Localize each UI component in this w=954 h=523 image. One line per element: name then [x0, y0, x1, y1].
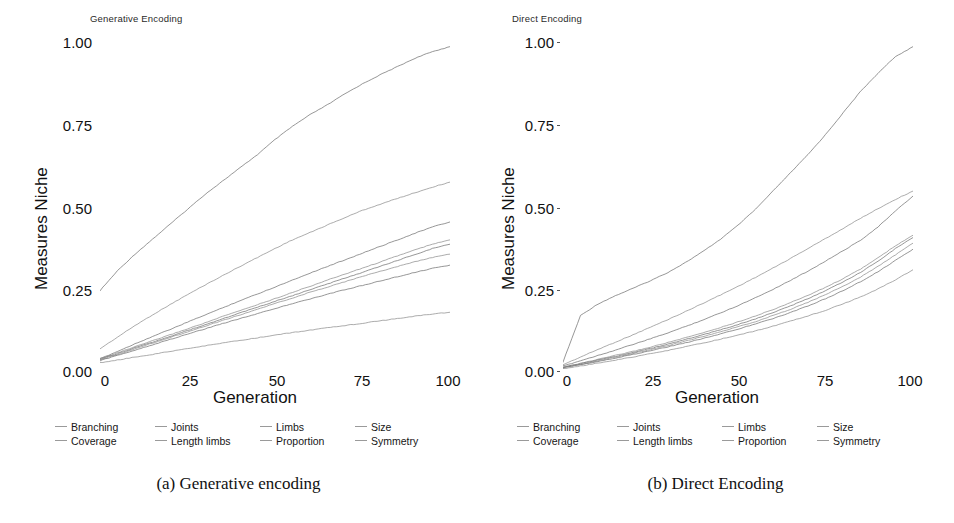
legend-dash-icon [155, 426, 167, 427]
legend-dash-icon [155, 440, 167, 441]
legend-dash-icon [722, 426, 734, 427]
line-chart-svg-right [563, 40, 913, 372]
legend-item-limbs-left[interactable]: Limbs [260, 420, 355, 433]
legend-item-proportion-left[interactable]: Proportion [260, 434, 355, 447]
legend-dash-icon [355, 440, 367, 441]
y-tick-label-right-2: 0.50 [502, 200, 554, 217]
y-tick-mark-right-2 [557, 208, 560, 209]
panel-title-left: Generative Encoding [90, 13, 183, 24]
x-tick-label-right-2: 50 [719, 372, 759, 389]
legend-row-top-right: BranchingJointsLimbsSize [517, 420, 927, 434]
y-tick-label-left-1: 0.25 [40, 282, 92, 299]
series-line [100, 265, 450, 361]
legend-dash-icon [817, 426, 829, 427]
legend-dash-icon [260, 426, 272, 427]
legend-dash-icon [722, 440, 734, 441]
legend-row-bottom-right: CoverageLength limbsProportionSymmetry [517, 434, 927, 448]
series-line [100, 240, 450, 359]
y-tick-mark-right-1 [557, 290, 560, 291]
plot-area-right [563, 40, 913, 372]
y-tick-label-right-1: 0.25 [502, 282, 554, 299]
y-tick-label-left-3: 0.75 [40, 117, 92, 134]
legend-item-length-limbs-right[interactable]: Length limbs [617, 434, 722, 447]
legend-item-proportion-right[interactable]: Proportion [722, 434, 817, 447]
legend-item-joints-left[interactable]: Joints [155, 420, 260, 433]
y-tick-label-left-2: 0.50 [40, 200, 92, 217]
x-tick-label-right-3: 75 [805, 372, 845, 389]
y-tick-mark-right-3 [557, 125, 560, 126]
figure-caption-a: (a) Generative encoding [0, 474, 477, 494]
legend-item-symmetry-right[interactable]: Symmetry [817, 434, 880, 447]
legend-dash-icon [355, 426, 367, 427]
legend-dash-icon [817, 440, 829, 441]
x-tick-label-left-1: 25 [170, 372, 210, 389]
legend-item-length-limbs-left[interactable]: Length limbs [155, 434, 260, 447]
y-axis-label-left: Measures Niche [32, 167, 52, 290]
legend-item-size-right[interactable]: Size [817, 420, 853, 433]
series-line [100, 182, 450, 349]
series-line [563, 196, 913, 366]
legend-row-top-left: BranchingJointsLimbsSize [55, 420, 465, 434]
y-tick-label-right-4: 1.00 [502, 34, 554, 51]
x-tick-label-left-2: 50 [257, 372, 297, 389]
legend-left: BranchingJointsLimbsSize CoverageLength … [55, 420, 465, 448]
series-line [563, 238, 913, 368]
panel-generative-encoding: Generative Encoding Measures Niche 1.00 … [0, 0, 477, 465]
legend-dash-icon [55, 426, 67, 427]
x-tick-label-left-4: 100 [428, 372, 468, 389]
x-tick-label-right-0: 0 [547, 372, 587, 389]
x-tick-label-left-3: 75 [342, 372, 382, 389]
x-axis-label-right: Generation [592, 388, 842, 408]
y-tick-label-right-3: 0.75 [502, 117, 554, 134]
series-line [563, 235, 913, 367]
legend-row-bottom-left: CoverageLength limbsProportionSymmetry [55, 434, 465, 448]
y-tick-label-left-4: 1.00 [40, 34, 92, 51]
figure-two-panel-chart: Generative Encoding Measures Niche 1.00 … [0, 0, 954, 523]
series-line [563, 191, 913, 365]
figure-caption-b: (b) Direct Encoding [477, 474, 954, 494]
series-line [100, 47, 450, 291]
legend-right: BranchingJointsLimbsSize CoverageLength … [517, 420, 927, 448]
series-line [100, 254, 450, 360]
panel-title-right: Direct Encoding [512, 13, 582, 24]
legend-item-coverage-left[interactable]: Coverage [55, 434, 155, 447]
legend-item-coverage-right[interactable]: Coverage [517, 434, 617, 447]
series-line [563, 270, 913, 369]
y-tick-mark-right-4 [557, 42, 560, 43]
legend-dash-icon [55, 440, 67, 441]
plot-area-left [100, 40, 450, 372]
legend-item-size-left[interactable]: Size [355, 420, 391, 433]
series-line [100, 222, 450, 359]
legend-item-limbs-right[interactable]: Limbs [722, 420, 817, 433]
legend-dash-icon [517, 440, 529, 441]
series-line [563, 243, 913, 367]
legend-dash-icon [517, 426, 529, 427]
x-tick-label-right-1: 25 [633, 372, 673, 389]
legend-dash-icon [617, 440, 629, 441]
series-line [100, 312, 450, 362]
legend-dash-icon [260, 440, 272, 441]
series-line [100, 244, 450, 359]
legend-dash-icon [617, 426, 629, 427]
series-line [563, 47, 913, 363]
x-tick-label-right-4: 100 [890, 372, 930, 389]
legend-item-branching-left[interactable]: Branching [55, 420, 155, 433]
legend-item-branching-right[interactable]: Branching [517, 420, 617, 433]
panel-direct-encoding: Direct Encoding Measures Niche 1.00 0.75… [477, 0, 954, 465]
x-tick-label-left-0: 0 [85, 372, 125, 389]
x-axis-label-left: Generation [130, 388, 380, 408]
y-axis-label-right: Measures Niche [499, 167, 519, 290]
line-chart-svg-left [100, 40, 450, 372]
legend-item-symmetry-left[interactable]: Symmetry [355, 434, 418, 447]
legend-item-joints-right[interactable]: Joints [617, 420, 722, 433]
